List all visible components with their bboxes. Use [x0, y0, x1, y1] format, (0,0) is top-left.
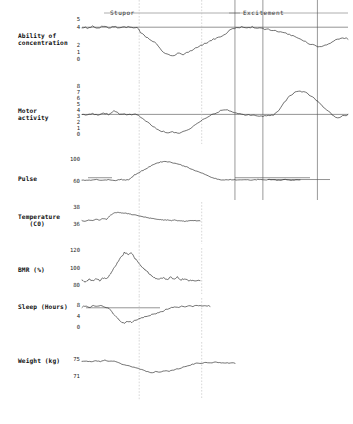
panel-sleep: Sleep (Hours) 8 4 0: [0, 296, 353, 340]
panel-weight: Weight (kg) 75 71: [0, 340, 353, 400]
plot-ability-of-concentration: [0, 0, 353, 82]
panel-motor-activity: Motor activity 8 7 6 5 4 3 2 1 0: [0, 82, 353, 144]
physiological-timeseries-figure: Stupor Excitement Ability of concentrati…: [0, 0, 353, 424]
panel-ability-of-concentration: Ability of concentration 5 4 2 1 0: [0, 0, 353, 82]
panel-pulse: Pulse 100 60: [0, 144, 353, 200]
panel-bmr: BMR (%) 120 100 80: [0, 246, 353, 296]
plot-motor-activity: [0, 82, 353, 144]
panel-temperature: Temperature (C0) 38 36: [0, 200, 353, 246]
plot-pulse: [0, 144, 353, 200]
plot-sleep: [0, 296, 353, 340]
plot-bmr: [0, 246, 353, 296]
plot-weight: [0, 340, 353, 400]
plot-temperature: [0, 200, 353, 246]
